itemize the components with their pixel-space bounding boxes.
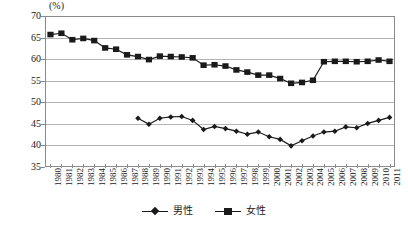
data-point-square: [91, 38, 97, 44]
y-tick-label: 35: [11, 162, 41, 172]
x-tick-label: 2005: [327, 168, 336, 186]
x-tick-mark: [182, 164, 183, 168]
data-point-diamond: [157, 115, 163, 121]
data-point-square: [277, 76, 283, 82]
data-point-square: [386, 59, 392, 65]
y-axis-unit-label: (%): [49, 1, 64, 11]
x-tick-label: 1981: [65, 168, 74, 186]
x-tick-label: 1991: [174, 168, 183, 186]
data-point-diamond: [179, 114, 185, 120]
data-point-square: [200, 62, 206, 68]
data-point-diamond: [387, 115, 393, 121]
x-tick-mark: [368, 164, 369, 168]
data-point-square: [179, 54, 185, 60]
data-point-diamond: [245, 131, 251, 137]
data-point-diamond: [234, 128, 240, 134]
data-point-square: [354, 59, 360, 65]
data-point-square: [124, 52, 130, 58]
data-point-square: [375, 57, 381, 63]
x-tick-label: 1980: [54, 168, 63, 186]
data-point-diamond: [146, 121, 152, 127]
data-point-square: [299, 80, 305, 86]
x-tick-mark: [83, 164, 84, 168]
legend-label-male: 男性: [173, 206, 193, 216]
x-tick-mark: [116, 164, 117, 168]
x-tick-label: 1993: [196, 168, 205, 186]
data-point-square: [310, 77, 316, 83]
y-tick-label: 70: [11, 11, 41, 21]
data-point-square: [321, 59, 327, 65]
data-point-diamond: [343, 124, 349, 130]
x-tick-label: 1997: [240, 168, 249, 186]
x-tick-label: 2008: [360, 168, 369, 186]
legend-item-female[interactable]: 女性: [215, 206, 266, 216]
x-tick-label: 2002: [295, 168, 304, 186]
x-tick-mark: [346, 164, 347, 168]
x-tick-mark: [127, 164, 128, 168]
data-point-diamond: [223, 126, 229, 132]
x-tick-mark: [313, 164, 314, 168]
x-tick-label: 2004: [316, 168, 325, 186]
legend-item-male[interactable]: 男性: [142, 206, 193, 216]
x-tick-label: 1996: [229, 168, 238, 186]
x-tick-mark: [61, 164, 62, 168]
y-tick-label: 55: [11, 76, 41, 86]
x-tick-mark: [105, 164, 106, 168]
data-point-square: [168, 54, 174, 60]
data-point-diamond: [168, 114, 174, 120]
x-tick-mark: [171, 164, 172, 168]
data-point-diamond: [277, 137, 283, 143]
data-point-square: [255, 72, 261, 78]
x-tick-label: 2006: [338, 168, 347, 186]
series-line-male: [138, 117, 390, 146]
diamond-marker-icon: [142, 206, 168, 216]
series-layer: [45, 16, 395, 167]
x-tick-label: 1983: [87, 168, 96, 186]
data-point-diamond: [376, 118, 382, 124]
data-point-square: [365, 59, 371, 65]
x-tick-mark: [280, 164, 281, 168]
x-tick-label: 2009: [371, 168, 380, 186]
data-point-square: [58, 30, 64, 36]
data-point-diamond: [365, 121, 371, 127]
y-tick-label: 60: [11, 54, 41, 64]
x-tick-label: 1989: [152, 168, 161, 186]
x-tick-label: 1987: [131, 168, 140, 186]
x-tick-label: 1995: [218, 168, 227, 186]
x-tick-mark: [160, 164, 161, 168]
legend-label-female: 女性: [246, 206, 266, 216]
x-tick-label: 1985: [109, 168, 118, 186]
x-tick-mark: [204, 164, 205, 168]
data-point-square: [244, 69, 250, 75]
x-tick-mark: [247, 164, 248, 168]
x-tick-mark: [193, 164, 194, 168]
x-tick-mark: [379, 164, 380, 168]
data-point-diamond: [212, 124, 218, 130]
chart-legend: 男性 女性: [0, 206, 408, 216]
x-tick-mark: [335, 164, 336, 168]
data-point-square: [157, 53, 163, 59]
y-tick-label: 45: [11, 119, 41, 129]
x-tick-mark: [302, 164, 303, 168]
x-tick-label: 2007: [349, 168, 358, 186]
y-tick-label: 40: [11, 140, 41, 150]
x-tick-label: 1986: [120, 168, 129, 186]
x-tick-mark: [291, 164, 292, 168]
x-tick-mark: [236, 164, 237, 168]
x-tick-mark: [50, 164, 51, 168]
x-tick-label: 2000: [273, 168, 282, 186]
data-point-square: [113, 46, 119, 52]
x-axis-tick-labels: 1980198119821983198419851986198719881989…: [45, 168, 395, 208]
data-point-square: [102, 45, 108, 51]
y-tick-label: 50: [11, 97, 41, 107]
data-point-square: [135, 54, 141, 60]
data-point-square: [222, 63, 228, 69]
data-point-diamond: [266, 134, 272, 140]
data-point-square: [190, 55, 196, 61]
x-tick-mark: [149, 164, 150, 168]
data-point-square: [80, 36, 86, 42]
x-tick-mark: [269, 164, 270, 168]
x-tick-mark: [324, 164, 325, 168]
x-tick-label: 1990: [163, 168, 172, 186]
x-tick-label: 2011: [393, 168, 402, 186]
